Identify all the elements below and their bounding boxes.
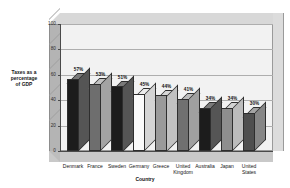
x-category-label: United States: [231, 163, 267, 175]
y-tick-mark: [58, 75, 60, 76]
y-tick-label: 20: [36, 123, 56, 128]
bar: [67, 79, 80, 151]
y-tick-mark: [58, 24, 60, 25]
y-tick-label: 100: [36, 21, 56, 26]
y-tick-mark: [58, 126, 60, 127]
bar: [133, 94, 146, 151]
bar-value-label: 51%: [107, 75, 139, 80]
bar-value-label: 30%: [239, 101, 271, 106]
bar: [111, 86, 124, 151]
y-axis-title: Taxes as apercentageof GDP: [2, 70, 46, 89]
gridline: [60, 49, 273, 50]
gridline: [60, 24, 273, 25]
bar-chart: 020406080100 57%53%51%45%44%41%34%34%30%…: [0, 0, 290, 188]
y-tick-mark: [58, 151, 60, 152]
chart-3d-top-surface: [49, 13, 273, 24]
y-tick-label: 0: [36, 148, 56, 153]
bar: [177, 99, 190, 151]
y-tick-mark: [58, 100, 60, 101]
bar-value-label: 41%: [173, 87, 205, 92]
y-tick-mark: [58, 49, 60, 50]
bar: [243, 113, 256, 151]
y-tick-label: 80: [36, 46, 56, 51]
x-axis-title: Country: [0, 176, 290, 182]
y-tick-label: 40: [36, 97, 56, 102]
bar: [89, 84, 102, 151]
chart-3d-floor: [49, 151, 273, 162]
bar: [199, 108, 212, 151]
y-axis-title-line: of GDP: [2, 82, 46, 88]
bar: [155, 95, 168, 151]
chart-3d-right-wall: [273, 13, 284, 151]
y-axis-line: [60, 24, 61, 152]
bar: [221, 108, 234, 151]
